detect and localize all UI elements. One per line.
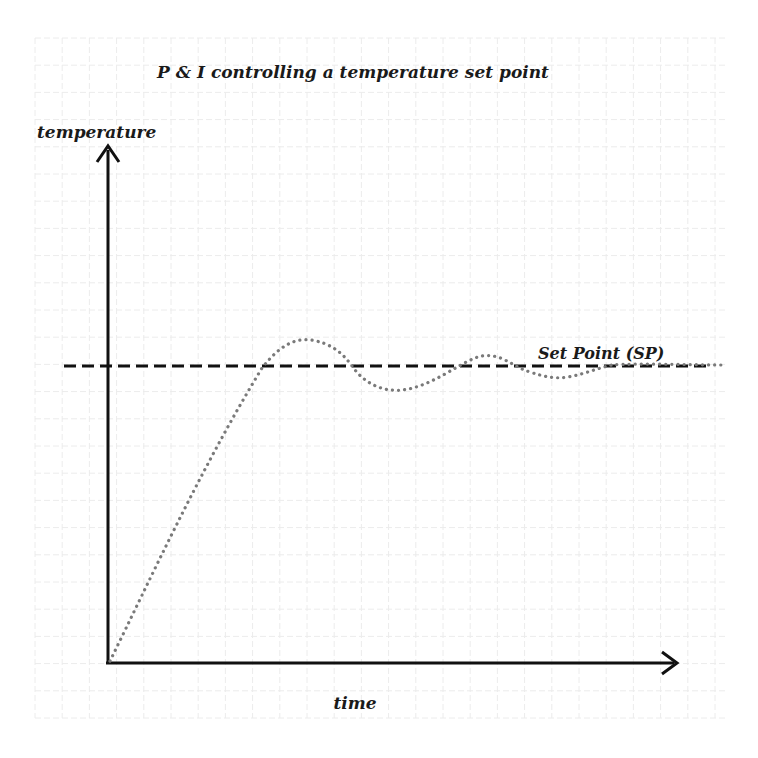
diagram-title: P & I controlling a temperature set poin…	[156, 62, 549, 82]
x-axis-label: time	[333, 693, 376, 713]
y-axis-label: temperature	[37, 122, 156, 142]
pi-control-diagram: P & I controlling a temperature set poin…	[0, 0, 758, 758]
setpoint-label: Set Point (SP)	[538, 344, 664, 363]
